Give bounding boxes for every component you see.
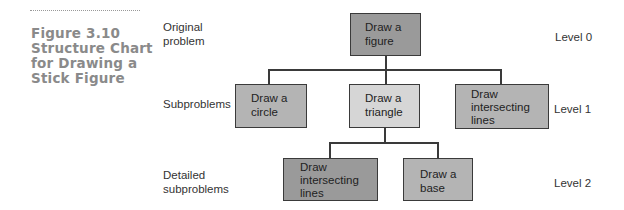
node-text: Draw	[300, 161, 377, 174]
connector-line	[437, 142, 439, 158]
connector-line	[500, 69, 502, 84]
caption-line: Figure 3.10	[31, 26, 161, 41]
node-text: triangle	[365, 106, 419, 120]
row-label-line: Detailed	[163, 168, 229, 182]
node-draw-intersecting-lines-l1: Draw intersecting lines	[455, 84, 549, 129]
node-draw-base: Draw a base	[403, 158, 473, 201]
node-text: figure	[365, 35, 420, 49]
node-draw-circle: Draw a circle	[235, 84, 307, 128]
connector-line	[385, 69, 387, 84]
node-text: Draw a	[251, 92, 306, 106]
row-label-line: problem	[163, 34, 205, 48]
level-1-label: Level 1	[554, 102, 591, 116]
node-text: Draw	[471, 88, 548, 101]
level-0-label: Level 0	[555, 30, 592, 44]
node-text: intersecting	[471, 101, 548, 114]
level-2-label: Level 2	[554, 176, 591, 190]
node-text: base	[420, 182, 472, 196]
node-draw-intersecting-lines-l2: Draw intersecting lines	[283, 158, 378, 201]
caption-line: Stick Figure	[31, 71, 161, 86]
node-draw-triangle: Draw a triangle	[349, 84, 420, 128]
row-label-subproblems: Subproblems	[163, 97, 231, 111]
node-text: Draw a	[420, 168, 472, 182]
node-text: Draw a	[365, 92, 419, 106]
figure-caption: Figure 3.10 Structure Chart for Drawing …	[31, 26, 161, 86]
row-label-line: subproblems	[163, 182, 229, 196]
caption-divider	[30, 10, 140, 11]
node-draw-figure: Draw a figure	[350, 13, 421, 56]
row-label-original: Original problem	[163, 20, 205, 48]
connector-line	[329, 142, 331, 158]
connector-line	[385, 55, 387, 70]
caption-line: Structure Chart	[31, 41, 161, 56]
node-text: circle	[251, 106, 306, 120]
connector-line	[329, 142, 439, 144]
node-text: lines	[471, 114, 548, 127]
node-text: intersecting	[300, 174, 377, 187]
row-label-line: Subproblems	[163, 97, 231, 111]
caption-line: for Drawing a	[31, 56, 161, 71]
connector-line	[384, 127, 386, 143]
node-text: lines	[300, 187, 377, 200]
row-label-detailed: Detailed subproblems	[163, 168, 229, 196]
connector-line	[268, 69, 270, 84]
row-label-line: Original	[163, 20, 205, 34]
node-text: Draw a	[365, 21, 420, 35]
